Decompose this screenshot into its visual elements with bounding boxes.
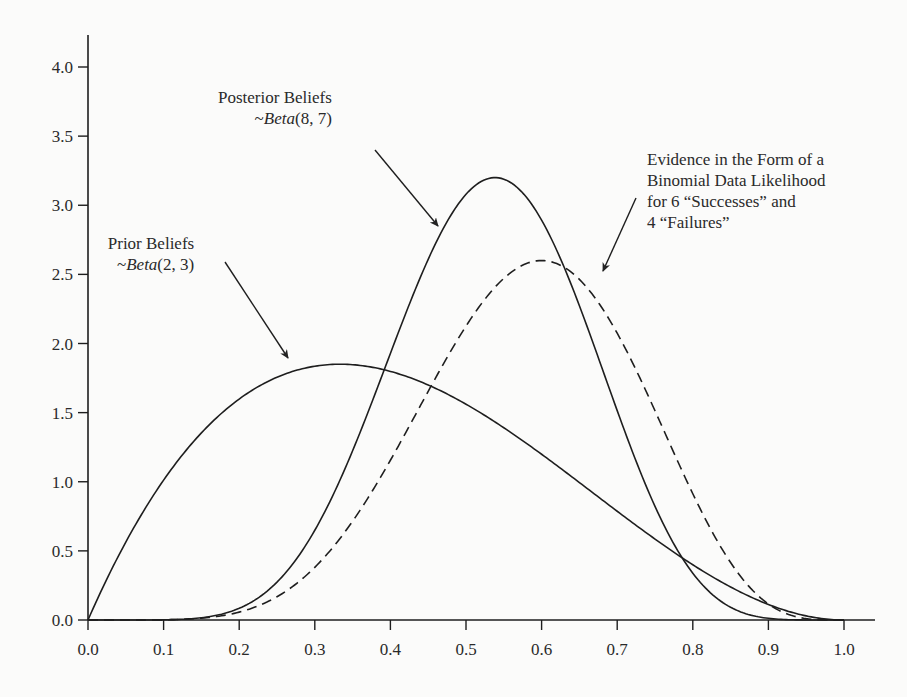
x-tick-label: 0.3	[304, 640, 325, 659]
y-tick-label: 4.0	[52, 58, 73, 77]
posterior-arrow-icon	[375, 150, 438, 226]
x-tick-label: 0.0	[77, 640, 98, 659]
evidence-arrow-icon	[603, 198, 636, 271]
y-tick-label: 1.0	[52, 473, 73, 492]
x-tick-label: 0.2	[229, 640, 250, 659]
prior-arrow-icon	[225, 262, 288, 358]
y-tick-label: 3.5	[52, 127, 73, 146]
prior-label: Prior Beliefs	[105, 233, 194, 254]
evidence-line-3: for 6 “Successes” and	[647, 191, 825, 212]
posterior-label: Posterior Beliefs	[218, 87, 332, 108]
prior-distribution: ~Beta(2, 3)	[105, 254, 194, 275]
annotation-evidence: Evidence in the Form of a Binomial Data …	[647, 149, 825, 233]
x-tick-label: 0.8	[682, 640, 703, 659]
prior-curve	[88, 364, 844, 620]
y-tick-label: 2.5	[52, 265, 73, 284]
evidence-line-2: Binomial Data Likelihood	[647, 170, 825, 191]
y-tick-label: 2.0	[52, 335, 73, 354]
chart-canvas: 0.00.10.20.30.40.50.60.70.80.91.00.00.51…	[0, 0, 907, 697]
axes	[88, 35, 875, 620]
annotation-prior: Prior Beliefs ~Beta(2, 3)	[105, 233, 194, 275]
x-tick-label: 0.7	[607, 640, 629, 659]
curves	[88, 178, 844, 620]
x-tick-label: 0.1	[153, 640, 174, 659]
y-tick-label: 0.0	[52, 611, 73, 630]
x-tick-label: 0.4	[380, 640, 402, 659]
posterior-distribution: ~Beta(8, 7)	[218, 108, 332, 129]
y-tick-label: 1.5	[52, 404, 73, 423]
x-tick-label: 0.9	[758, 640, 779, 659]
x-tick-label: 0.5	[455, 640, 476, 659]
posterior-curve	[88, 178, 844, 620]
y-tick-label: 3.0	[52, 196, 73, 215]
evidence-line-4: 4 “Failures”	[647, 212, 825, 233]
x-tick-label: 0.6	[531, 640, 552, 659]
evidence-line-1: Evidence in the Form of a	[647, 149, 825, 170]
y-tick-label: 0.5	[52, 542, 73, 561]
x-tick-label: 1.0	[833, 640, 854, 659]
annotation-posterior: Posterior Beliefs ~Beta(8, 7)	[218, 87, 332, 129]
likelihood-curve	[88, 261, 844, 620]
